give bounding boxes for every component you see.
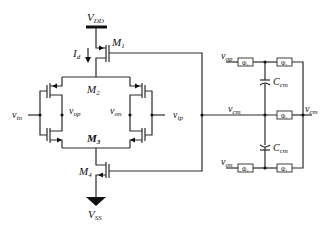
von-label: von [110,105,122,118]
vcm-label: vcm [228,103,241,116]
vdd-label: VDD [87,11,104,25]
vop-cmfb-label: vop [221,50,233,63]
ccm-top-label: Ccm [273,76,288,89]
m4-label: M4 [78,165,92,179]
m3-label: M3 [86,132,101,146]
vcm-ref-label: vcm [305,103,318,116]
svg-text:Φ₁: Φ₁ [281,166,287,172]
vop-label: vop [69,105,81,118]
svg-text:Φ₂: Φ₂ [242,60,248,66]
circuit-diagram: VDD M1 Id M2 [0,0,334,231]
m1-label: M1 [111,36,125,50]
transistor-m1 [96,27,167,77]
vip-label: vip [173,109,183,122]
svg-text:Φ₁: Φ₁ [281,113,287,119]
transistor-m4 [96,148,167,197]
ccm-bottom-label: Ccm [273,142,288,155]
transistor-m2-right [130,77,152,115]
id-label: Id [72,47,81,61]
svg-text:Φ₂: Φ₂ [242,166,248,172]
vin-label: vin [12,109,22,122]
transistor-m3-right [130,115,152,148]
vss-label: VSS [88,208,102,222]
von-cmfb-label: von [221,156,233,169]
transistor-m2-left [40,77,62,115]
m2-label: M2 [86,83,100,97]
current-arrow-icon [85,48,91,63]
capacitor-bottom-icon [260,145,270,147]
transistor-m3-left [40,115,62,148]
svg-text:Φ₁: Φ₁ [281,60,287,66]
vss-ground-icon [86,197,106,206]
